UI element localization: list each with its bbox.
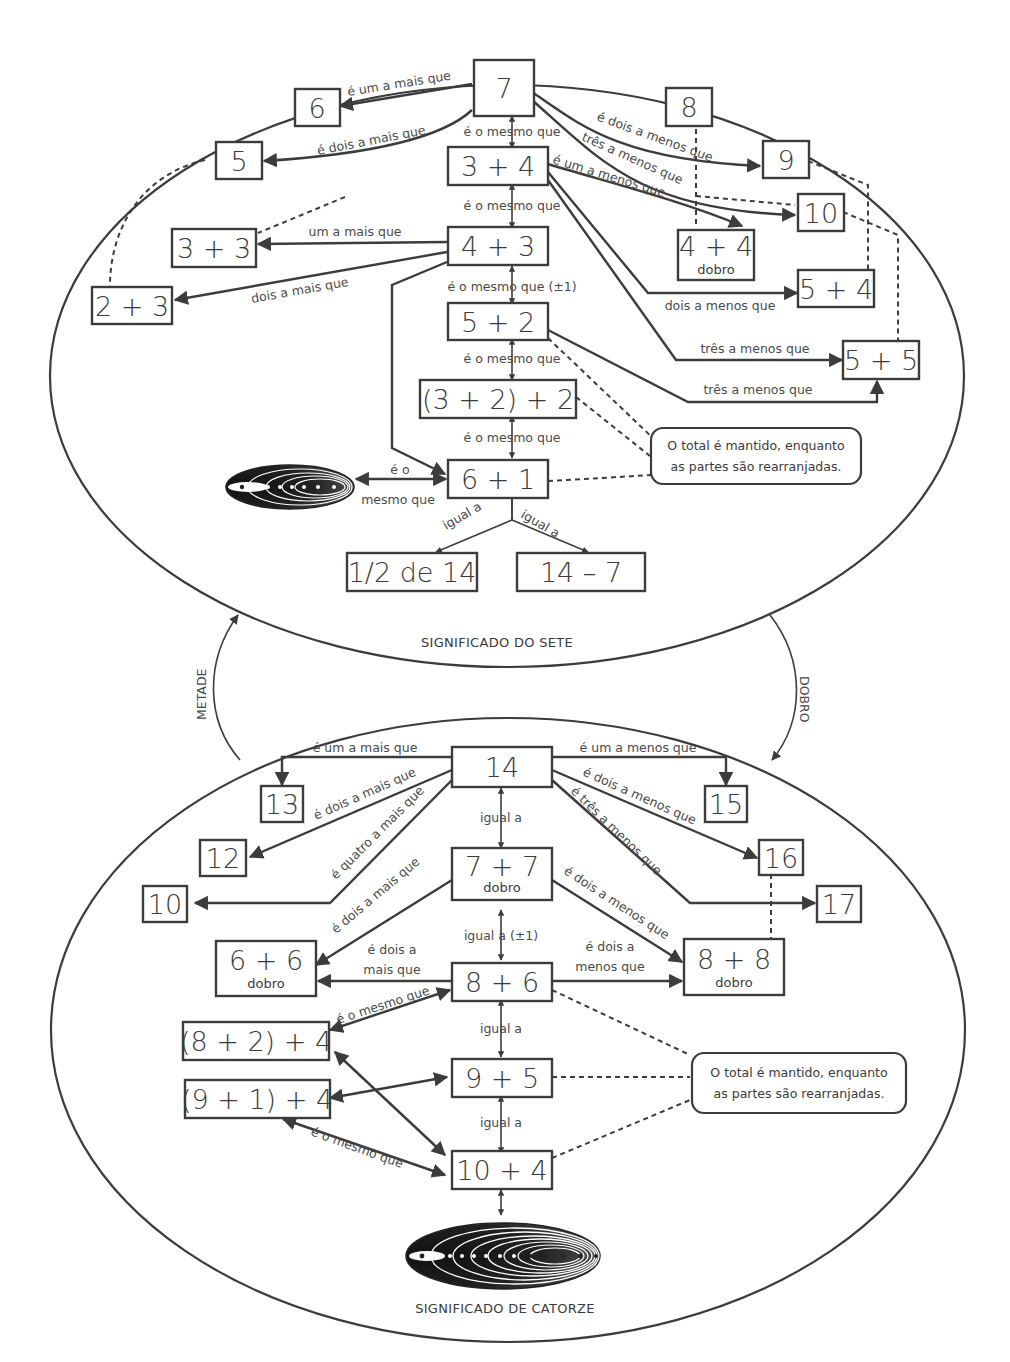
label-same: é o mesmo que bbox=[334, 983, 431, 1027]
box-8plus8: 8 + 8dobro bbox=[684, 939, 784, 995]
svg-text:4 + 3: 4 + 3 bbox=[461, 231, 535, 262]
svg-text:(8 + 2) + 4: (8 + 2) + 4 bbox=[180, 1026, 332, 1057]
box-17: 17 bbox=[817, 886, 861, 922]
svg-text:13: 13 bbox=[265, 789, 299, 820]
bottom-labels: é um a mais que é um a menos que é dois … bbox=[309, 740, 699, 1171]
top-boxes: 7 6 5 3 + 4 4 + 3 3 + 3 2 + 3 5 + 2 (3 +… bbox=[92, 60, 919, 591]
label-two-less-part1: é dois a bbox=[586, 939, 635, 954]
label-same: é o mesmo que bbox=[463, 430, 560, 445]
svg-text:dobro: dobro bbox=[697, 262, 735, 277]
svg-text:14: 14 bbox=[485, 752, 519, 783]
label-three-less: três a menos que bbox=[703, 382, 812, 397]
svg-text:8 + 6: 8 + 6 bbox=[465, 967, 539, 998]
box-3plus3: 3 + 3 bbox=[172, 229, 256, 267]
label-same: é o mesmo que bbox=[463, 124, 560, 139]
svg-text:dobro: dobro bbox=[483, 880, 521, 895]
label-three-less: três a menos que bbox=[700, 341, 809, 356]
note-line-2: as partes são rearranjadas. bbox=[671, 459, 842, 474]
box-7plus7: 7 + 7dobro bbox=[452, 848, 552, 900]
box-half-of-14: 1/2 de 14 bbox=[347, 553, 477, 591]
box-5plus4: 5 + 4 bbox=[798, 270, 874, 307]
svg-text:7 + 7: 7 + 7 bbox=[465, 851, 539, 882]
box-13: 13 bbox=[261, 786, 303, 822]
box-8plus2-plus4: (8 + 2) + 4 bbox=[180, 1022, 332, 1060]
svg-text:8: 8 bbox=[680, 92, 697, 123]
label-same-part1: é o bbox=[390, 462, 409, 477]
double-label: DOBRO bbox=[797, 676, 812, 723]
label-equal: igual a bbox=[480, 810, 522, 825]
svg-text:5 + 2: 5 + 2 bbox=[461, 307, 535, 338]
seven-meaning-title: SIGNIFICADO DO SETE bbox=[421, 635, 573, 650]
svg-text:3 + 4: 3 + 4 bbox=[461, 151, 535, 182]
box-5plus2: 5 + 2 bbox=[448, 303, 548, 340]
svg-text:dobro: dobro bbox=[247, 976, 285, 991]
label-two-more-part1: é dois a bbox=[368, 942, 417, 957]
label-same: é o mesmo que bbox=[463, 351, 560, 366]
half-arc: METADE bbox=[194, 615, 240, 760]
box-4plus3: 4 + 3 bbox=[448, 227, 548, 265]
svg-text:9 + 5: 9 + 5 bbox=[465, 1063, 539, 1094]
note-line-1: O total é mantido, enquanto bbox=[710, 1065, 887, 1080]
box-4plus4: 4 + 4dobro bbox=[678, 230, 754, 280]
box-9plus5: 9 + 5 bbox=[452, 1059, 552, 1097]
box-10: 10 bbox=[798, 194, 844, 231]
svg-text:16: 16 bbox=[764, 843, 798, 874]
label-same-part2: mesmo que bbox=[361, 492, 435, 507]
top-note-callout: O total é mantido, enquanto as partes sã… bbox=[651, 428, 861, 484]
box-6plus6: 6 + 6dobro bbox=[216, 941, 316, 996]
box-10plus4: 10 + 4 bbox=[452, 1151, 552, 1189]
svg-text:12: 12 bbox=[206, 843, 240, 874]
label-equal: igual a bbox=[480, 1021, 522, 1036]
box-5: 5 bbox=[216, 142, 262, 179]
svg-text:7: 7 bbox=[495, 73, 512, 104]
box-6plus1: 6 + 1 bbox=[448, 460, 548, 498]
label-same-pm1: é o mesmo que (±1) bbox=[447, 279, 576, 294]
svg-text:1/2 de 14: 1/2 de 14 bbox=[348, 557, 477, 588]
box-14-minus-7: 14 – 7 bbox=[517, 553, 645, 591]
number-sense-diagram: METADE DOBRO bbox=[0, 0, 1010, 1362]
svg-text:(9 + 1) + 4: (9 + 1) + 4 bbox=[181, 1084, 333, 1115]
svg-text:10: 10 bbox=[804, 198, 838, 229]
svg-text:4 + 4: 4 + 4 bbox=[679, 231, 753, 262]
box-10: 10 bbox=[143, 886, 187, 922]
svg-text:6: 6 bbox=[308, 93, 325, 124]
label-two-less-part2: menos que bbox=[575, 959, 645, 974]
svg-text:17: 17 bbox=[822, 889, 856, 920]
box-7: 7 bbox=[474, 60, 534, 116]
label-one-less: é um a menos que bbox=[580, 740, 697, 755]
box-8plus6: 8 + 6 bbox=[452, 963, 552, 1001]
box-16: 16 bbox=[759, 840, 803, 875]
box-15: 15 bbox=[705, 786, 747, 822]
box-9: 9 bbox=[763, 141, 809, 178]
svg-text:6 + 6: 6 + 6 bbox=[229, 945, 303, 976]
box-5plus5: 5 + 5 bbox=[843, 341, 919, 379]
label-one-more: um a mais que bbox=[308, 224, 401, 239]
label-two-more-part2: mais que bbox=[363, 962, 421, 977]
label-same: é o mesmo que bbox=[309, 1124, 406, 1171]
svg-text:8 + 8: 8 + 8 bbox=[697, 944, 771, 975]
svg-text:15: 15 bbox=[709, 789, 743, 820]
dot-pattern-fourteen-icon bbox=[406, 1223, 600, 1289]
dot-pattern-seven-icon bbox=[226, 465, 354, 509]
label-same: é o mesmo que bbox=[463, 198, 560, 213]
box-8: 8 bbox=[666, 88, 712, 126]
svg-text:3 + 3: 3 + 3 bbox=[177, 233, 251, 264]
svg-text:14 – 7: 14 – 7 bbox=[540, 557, 622, 588]
box-6: 6 bbox=[295, 89, 340, 126]
box-2plus3: 2 + 3 bbox=[92, 287, 172, 324]
note-line-2: as partes são rearranjadas. bbox=[714, 1086, 885, 1101]
svg-text:10 + 4: 10 + 4 bbox=[456, 1155, 547, 1186]
svg-text:5 + 4: 5 + 4 bbox=[799, 274, 873, 305]
label-equal-pm1: igual a (±1) bbox=[464, 928, 538, 943]
svg-text:10: 10 bbox=[148, 889, 182, 920]
box-12: 12 bbox=[200, 840, 246, 876]
note-line-1: O total é mantido, enquanto bbox=[667, 438, 844, 453]
box-14: 14 bbox=[452, 747, 552, 787]
svg-text:dobro: dobro bbox=[715, 975, 753, 990]
svg-text:6 + 1: 6 + 1 bbox=[461, 464, 535, 495]
half-label: METADE bbox=[194, 668, 209, 720]
fourteen-meaning-title: SIGNIFICADO DE CATORZE bbox=[415, 1301, 595, 1316]
label-equal: igual a bbox=[519, 507, 563, 541]
label-one-more: é um a mais que bbox=[313, 740, 418, 755]
svg-text:2 + 3: 2 + 3 bbox=[95, 291, 169, 322]
